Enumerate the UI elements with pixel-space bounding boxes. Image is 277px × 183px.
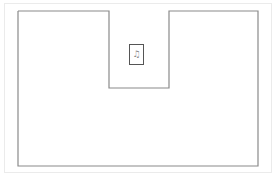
marker-symbol: ♫: [132, 50, 140, 59]
marker-icon[interactable]: ♫: [129, 44, 144, 65]
floor-plan-outline: [0, 0, 277, 183]
u-shape-outline: [18, 11, 258, 166]
